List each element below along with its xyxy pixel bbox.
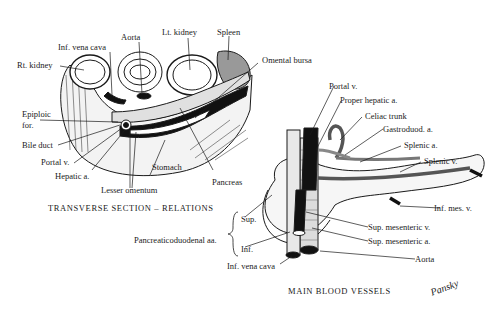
label-hepatic-a: Hepatic a.: [55, 172, 89, 181]
label-rt-kidney: Rt. kidney: [17, 61, 52, 70]
label-sup-mesenteric-v: Sup. mesenteric v.: [368, 223, 430, 232]
label-spleen: Spleen: [217, 28, 240, 37]
label-bile-duct: Bile duct: [22, 141, 53, 150]
label-inf: Inf.: [241, 245, 253, 254]
label-stomach: Stomach: [152, 163, 182, 172]
label-aorta-left: Aorta: [121, 33, 140, 42]
label-inf-vena-cava-right: Inf. vena cava: [227, 262, 275, 271]
label-lt-kidney: Lt. kidney: [162, 28, 197, 37]
label-splenic-a: Splenic a.: [404, 141, 438, 150]
label-omental-bursa: Omental bursa: [262, 56, 312, 65]
caption-main-blood-vessels: MAIN BLOOD VESSELS: [288, 286, 391, 296]
label-gastroduod-a: Gastroduod. a.: [383, 125, 433, 134]
label-epiploic: Epiploic: [22, 110, 51, 119]
label-inf-vena-cava-left: Inf. vena cava: [58, 43, 106, 52]
label-pancreaticoduodenal: Pancreaticoduodenal aa.: [134, 236, 217, 245]
label-sup-mesenteric-a: Sup. mesenteric a.: [368, 237, 430, 246]
label-lesser-omentum: Lesser omentum: [101, 186, 157, 195]
label-portal-v-left: Portal v.: [41, 158, 69, 167]
label-splenic-v: Splenic v.: [424, 157, 457, 166]
label-proper-hepatic-a: Proper hepatic a.: [340, 96, 397, 105]
label-celiac-trunk: Celiac trunk: [365, 112, 407, 121]
caption-transverse-section: TRANSVERSE SECTION – RELATIONS: [48, 203, 214, 213]
label-sup: Sup.: [241, 215, 256, 224]
label-inf-mes-v: Inf. mes. v.: [434, 204, 472, 213]
label-aorta-right: Aorta: [415, 255, 434, 264]
label-epiploic-for: for.: [22, 121, 34, 130]
label-portal-v-right: Portal v.: [329, 82, 357, 91]
label-pancreas-left: Pancreas: [212, 178, 242, 187]
